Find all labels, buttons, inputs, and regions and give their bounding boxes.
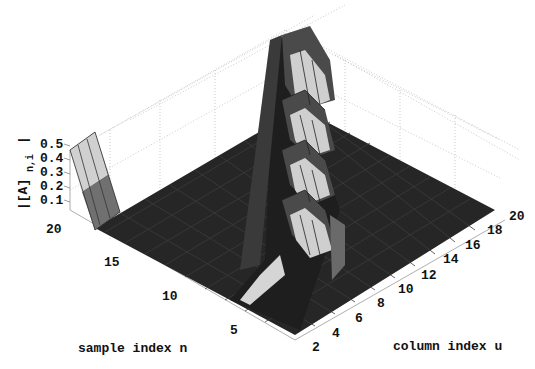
z-tick: 0.3	[40, 165, 64, 180]
x-tick: 8	[377, 296, 385, 311]
x-tick: 2	[312, 340, 320, 355]
x-tick: 16	[465, 238, 481, 253]
y-axis-label: sample index n	[78, 341, 187, 356]
z-axis-label: |[A]	[16, 179, 31, 210]
x-axis-label: column index u	[393, 339, 502, 354]
z-axis-subscript: n,i	[25, 154, 36, 172]
z-tick: 0.2	[40, 179, 64, 194]
y-tick: 5	[230, 323, 238, 338]
y-tick: 20	[46, 222, 62, 237]
z-axis: 0.5 0.4 0.3 0.2 0.1 |[A] n,i |	[16, 136, 70, 210]
z-tick: 0.5	[40, 137, 64, 152]
x-tick: 4	[332, 326, 340, 341]
x-tick: 20	[509, 209, 525, 224]
x-tick: 18	[487, 223, 503, 238]
x-tick: 6	[355, 311, 363, 326]
x-tick: 10	[398, 282, 414, 297]
x-tick: 12	[421, 268, 437, 283]
x-tick: 14	[443, 252, 459, 267]
z-tick: 0.1	[40, 193, 64, 208]
y-tick: 15	[104, 255, 120, 270]
z-axis-close: |	[16, 136, 31, 144]
y-tick: 10	[162, 289, 178, 304]
z-tick: 0.4	[40, 151, 64, 166]
surface	[70, 26, 495, 335]
surface-plot: 0.5 0.4 0.3 0.2 0.1 |[A] n,i | 20 15 10 …	[0, 0, 535, 369]
